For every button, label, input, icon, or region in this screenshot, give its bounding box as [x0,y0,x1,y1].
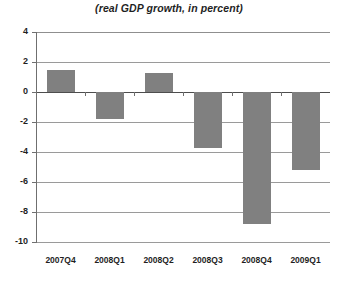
y-axis-label-minus-6: -6 [0,177,28,186]
gridline-4 [36,32,330,33]
gridline-minus-6 [36,182,330,183]
y-tick-minus-2 [32,122,37,123]
y-axis-label-minus-8: -8 [0,207,28,216]
y-tick-4 [32,32,37,33]
x-axis-label-2008q3: 2008Q3 [180,255,236,265]
y-tick-minus-6 [32,182,37,183]
x-axis-label-2008q1: 2008Q1 [82,255,138,265]
y-axis-label-minus-2: -2 [0,117,28,126]
x-tick-4 [232,92,233,96]
chart-title: (real GDP growth, in percent) [0,2,338,14]
x-tick-5 [281,92,282,96]
y-tick-minus-10 [32,242,37,243]
x-tick-2 [134,92,135,96]
x-tick-3 [183,92,184,96]
y-axis-label-4: 4 [0,27,28,36]
x-axis-label-2007q4: 2007Q4 [33,255,89,265]
y-axis-label-0: 0 [0,87,28,96]
x-axis-label-2008q4: 2008Q4 [229,255,285,265]
plot-area [36,32,330,242]
y-axis-label-minus-10: -10 [0,237,28,246]
gridline-minus-10 [36,242,330,243]
y-axis-label-minus-4: -4 [0,147,28,156]
bar-2009q1 [292,92,320,170]
x-axis-label-2008q2: 2008Q2 [131,255,187,265]
bar-2007q4 [47,70,75,93]
bar-2008q4 [243,92,271,224]
x-tick-1 [85,92,86,96]
gdp-growth-bar-chart: (real GDP growth, in percent) 4 2 0 -2 -… [0,0,338,286]
x-axis-label-2009q1: 2009Q1 [278,255,334,265]
gridline-minus-4 [36,152,330,153]
gridline-2 [36,62,330,63]
y-axis-label-2: 2 [0,57,28,66]
y-tick-0 [32,92,37,93]
bar-2008q3 [194,92,222,148]
y-tick-2 [32,62,37,63]
gridline-minus-2 [36,122,330,123]
bar-2008q1 [96,92,124,119]
gridline-minus-8 [36,212,330,213]
y-tick-minus-8 [32,212,37,213]
bar-2008q2 [145,73,173,93]
y-tick-minus-4 [32,152,37,153]
